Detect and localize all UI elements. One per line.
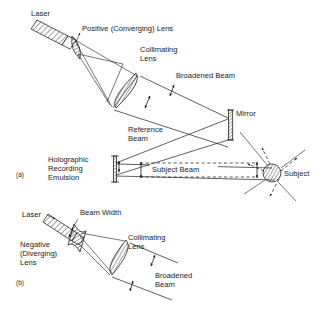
label-mirror: Mirror: [236, 109, 256, 118]
label-collimating-lens-a-line2: Lens: [140, 54, 157, 63]
label-broadened-beam-b-line2: Beam: [155, 280, 175, 289]
label-broadened-beam-b-line1: Broadened: [155, 271, 192, 280]
broadened-beam-tick-b1: [151, 255, 155, 266]
beam-width-tick-a2: [145, 96, 150, 108]
holographic-recording-emulsion: [111, 156, 119, 182]
label-emulsion-line1: Holographic: [48, 155, 89, 164]
label-negative-lens-line2: (Diverging): [20, 249, 58, 258]
label-subject-beam: Subject Beam: [152, 165, 199, 174]
label-reference-beam-line2: Beam: [128, 134, 148, 143]
subject-object: [263, 164, 281, 182]
laser-body-a: [31, 20, 76, 49]
label-negative-lens-line3: Lens: [20, 258, 37, 267]
label-subject: Subject: [284, 169, 310, 178]
diagram-canvas: Laser Positive (Converging) Lens Collima…: [0, 0, 327, 310]
label-reference-beam-line1: Reference: [128, 125, 163, 134]
caption-panel-b: (b): [16, 279, 24, 287]
label-collimating-lens-a-line1: Collimating: [140, 45, 178, 54]
collimating-lens-a: [115, 73, 138, 108]
label-positive-lens: Positive (Converging) Lens: [82, 24, 173, 33]
collimating-lens-b: [110, 240, 128, 275]
ray-cone-a: [75, 40, 137, 108]
label-beam-width: Beam Width: [80, 208, 121, 217]
label-emulsion-line3: Emulsion: [48, 173, 79, 182]
broadened-beam-tick-b2: [130, 281, 133, 291]
label-negative-lens-line1: Negative: [20, 240, 50, 249]
label-emulsion-line2: Recording: [48, 164, 83, 173]
label-collimating-lens-b-line1: Collimating: [128, 233, 166, 242]
label-laser-b: Laser: [22, 210, 41, 219]
mirror: [227, 110, 234, 140]
caption-panel-a: (a): [16, 171, 24, 179]
label-laser-a: Laser: [31, 9, 50, 18]
label-broadened-beam-a: Broadened Beam: [176, 71, 235, 80]
